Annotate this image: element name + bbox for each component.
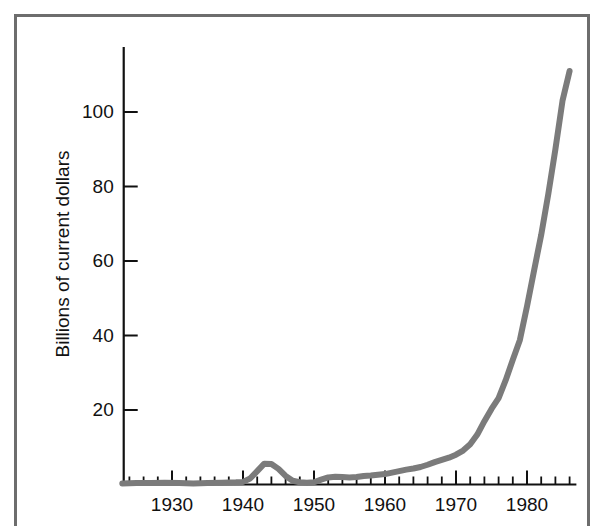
- x-tick-label: 1930: [151, 494, 193, 515]
- x-tick-label: 1940: [222, 494, 264, 515]
- y-tick-label: 40: [93, 325, 114, 346]
- data-series: [122, 71, 569, 483]
- series-line: [122, 71, 569, 483]
- x-tick-labels: 193019401950196019701980: [151, 494, 548, 515]
- line-chart-plot: 20406080100 193019401950196019701980: [0, 0, 604, 526]
- y-tick-label: 100: [82, 101, 114, 122]
- x-tick-label: 1960: [364, 494, 406, 515]
- x-tick-label: 1950: [293, 494, 335, 515]
- y-tick-labels: 20406080100: [82, 101, 114, 420]
- axes: [124, 48, 576, 485]
- tick-marks: [124, 112, 570, 485]
- chart-figure: Billions of current dollars 20406080100 …: [0, 0, 604, 526]
- y-tick-label: 20: [93, 399, 114, 420]
- y-tick-label: 60: [93, 250, 114, 271]
- y-tick-label: 80: [93, 176, 114, 197]
- x-tick-label: 1970: [435, 494, 477, 515]
- x-tick-label: 1980: [506, 494, 548, 515]
